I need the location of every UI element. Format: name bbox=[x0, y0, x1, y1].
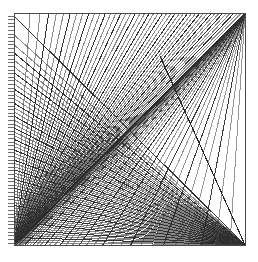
figure-root bbox=[0, 0, 258, 262]
line-envelope-figure bbox=[0, 0, 258, 262]
